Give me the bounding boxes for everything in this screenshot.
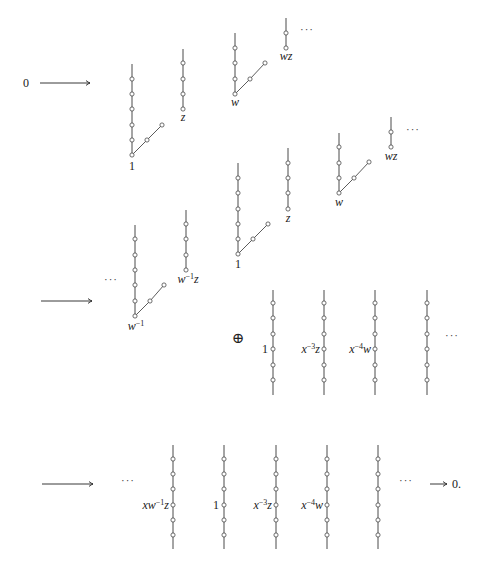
tree-z-row1b: z (285, 148, 291, 225)
column-x-3z-row3-label-part-1: −3 (259, 498, 268, 507)
node-circle (184, 253, 188, 257)
row1a-ellipsis-part-0: ··· (300, 23, 314, 35)
tree-w-inv-z-row2: w−1z (177, 210, 199, 286)
tree-wz-row1: wz (280, 18, 293, 63)
node-circle (130, 123, 134, 127)
node-circle (236, 237, 240, 241)
node-circle (274, 518, 278, 522)
arrows-layer (40, 81, 447, 487)
diagram-canvas: 1zwwz1zwwzw−1w−1z1x−3zx−4wxw−1z1x−3zx−4w… (0, 0, 482, 568)
column-1-row2: 1 (262, 290, 275, 395)
column-x-3z-row2-label-part-2: z (314, 342, 320, 356)
row3-ellipsis-right-part-0: ··· (399, 474, 413, 486)
tree-w-inv-z-row2-label-part-2: z (193, 272, 199, 286)
node-circle (286, 161, 290, 165)
tree-w-row1b-label-part-0: w (335, 195, 343, 209)
column-x-3z-row3-label-part-2: z (266, 498, 272, 512)
node-circle (130, 107, 134, 111)
node-circle (322, 332, 326, 336)
node-circle (236, 191, 240, 195)
node-circle (181, 77, 185, 81)
node-circle (171, 533, 175, 537)
node-circle (171, 518, 175, 522)
node-circle (271, 301, 275, 305)
node-circle (325, 518, 329, 522)
tree-1-row1b-label: 1 (235, 257, 241, 271)
node-circle (325, 503, 329, 507)
row1b-ellipsis-part-0: ··· (406, 123, 420, 135)
row3-ellipsis-left-part-0: ··· (121, 474, 135, 486)
node-circle (376, 472, 380, 476)
node-circle (130, 138, 134, 142)
node-circle (181, 92, 185, 96)
tree-1-row1-label-part-0: 1 (129, 159, 135, 173)
node-circle (133, 314, 137, 318)
node-circle (376, 518, 380, 522)
arrow-last-to-0 (430, 482, 447, 487)
node-circle (171, 503, 175, 507)
column-xw-1z-row3-label-part-2: z (163, 498, 169, 512)
tree-wz-row1b-label: wz (385, 149, 398, 163)
node-circle (160, 123, 164, 127)
tree-wz-row1-label: wz (280, 49, 293, 63)
tree-w-inv-z-row2-label: w−1z (177, 272, 199, 287)
node-circle (171, 472, 175, 476)
tree-z-row1b-label: z (285, 211, 291, 225)
node-circle (271, 378, 275, 382)
node-circle (373, 316, 377, 320)
column-xw-1z-row3-label: xw−1z (141, 498, 169, 513)
tree-z-row1-label: z (180, 110, 186, 124)
row2-ellipsis-right-part-0: ··· (445, 329, 459, 341)
node-circle (373, 347, 377, 351)
node-circle (266, 222, 270, 226)
node-circle (425, 316, 429, 320)
node-circle (222, 487, 226, 491)
node-circle (133, 299, 137, 303)
node-circle (274, 503, 278, 507)
node-circle (236, 252, 240, 256)
row3-ellipsis-left: ··· (121, 474, 135, 486)
node-circle (133, 237, 137, 241)
oplus-sign: ⊕ (232, 329, 245, 347)
column-x-4w-row3-label-part-2: w (315, 498, 323, 512)
node-circle (325, 533, 329, 537)
tree-1-row1: 1 (129, 64, 164, 173)
node-circle (271, 316, 275, 320)
tree-1-row1b: 1 (235, 163, 270, 271)
node-circle (286, 191, 290, 195)
tree-w-row1b-label: w (335, 195, 343, 209)
node-circle (251, 237, 255, 241)
tree-w-inv-row2: w−1 (128, 225, 166, 333)
row2-ellipsis-right: ··· (445, 329, 459, 341)
column-x-3z-row2-label-part-1: −3 (307, 342, 316, 351)
node-circle (130, 77, 134, 81)
column-x-4w-row2-label-part-2: w (363, 342, 371, 356)
tree-wz-row1-label-part-0: wz (280, 49, 293, 63)
zero-start-part-0: 0 (23, 76, 29, 90)
column-1-row2-label: 1 (262, 342, 268, 356)
oplus-sign-part-0: ⊕ (232, 329, 245, 347)
node-circle (352, 176, 356, 180)
node-circle (322, 301, 326, 305)
node-circle (325, 487, 329, 491)
node-circle (389, 130, 393, 134)
tree-z-row1: z (180, 49, 186, 124)
node-circle (222, 503, 226, 507)
column-xw-1z-row3-label-part-0: xw (141, 498, 155, 512)
column-1-row3: 1 (213, 445, 226, 549)
node-circle (376, 457, 380, 461)
tree-w-inv-row2-label-part-0: w (128, 319, 136, 333)
tree-w-inv-z-row2-label-part-0: w (177, 272, 185, 286)
node-circle (376, 503, 380, 507)
node-circle (233, 77, 237, 81)
arrow-0-to-first (40, 81, 90, 86)
tree-w-row1b: w (335, 133, 371, 209)
node-circle (171, 457, 175, 461)
tree-1-row1-label: 1 (129, 159, 135, 173)
node-circle (284, 31, 288, 35)
arrow-middle-to-last (42, 482, 93, 487)
tree-w-inv-row2-label: w−1 (128, 319, 145, 334)
row2-ellipsis-left-part-0: ··· (104, 273, 118, 285)
trees-layer: 1zwwz1zwwzw−1w−1z1x−3zx−4wxw−1z1x−3zx−4w (128, 18, 429, 549)
node-circle (274, 472, 278, 476)
